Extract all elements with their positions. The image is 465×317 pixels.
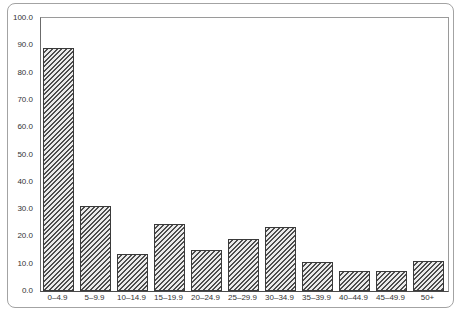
bar-chart-figure: 0.010.020.030.040.050.060.070.080.090.01…	[0, 0, 465, 317]
bar-10–14.9	[117, 254, 148, 291]
x-tick-label: 10–14.9	[116, 293, 147, 303]
plot-area	[40, 17, 449, 292]
x-axis: 0–4.95–9.910–14.915–19.920–24.925–29.930…	[40, 293, 447, 303]
y-tick-label: 30.0	[17, 204, 33, 213]
bar-0–4.9	[43, 48, 74, 291]
x-tick-label: 35–39.9	[301, 293, 332, 303]
x-tick-label: 25–29.9	[227, 293, 258, 303]
y-tick-label: 70.0	[17, 94, 33, 103]
bar-series	[41, 18, 448, 291]
x-tick-label: 45–49.9	[375, 293, 406, 303]
bar-35–39.9	[302, 262, 333, 291]
y-tick-label: 20.0	[17, 231, 33, 240]
y-tick-label: 100.0	[13, 13, 33, 22]
bar-25–29.9	[228, 239, 259, 291]
x-tick-label: 5–9.9	[79, 293, 110, 303]
bar-5–9.9	[80, 206, 111, 291]
x-tick-label: 0–4.9	[42, 293, 73, 303]
y-tick-label: 60.0	[17, 122, 33, 131]
bar-40–44.9	[339, 271, 370, 291]
y-tick-label: 90.0	[17, 40, 33, 49]
bar-50+	[413, 261, 444, 291]
bar-45–49.9	[376, 271, 407, 291]
y-tick-label: 50.0	[17, 149, 33, 158]
bar-30–34.9	[265, 227, 296, 291]
y-tick-label: 0.0	[22, 286, 33, 295]
x-tick-label: 50+	[412, 293, 443, 303]
x-tick-label: 30–34.9	[264, 293, 295, 303]
x-tick-label: 15–19.9	[153, 293, 184, 303]
y-axis: 0.010.020.030.040.050.060.070.080.090.01…	[0, 17, 36, 290]
x-tick-label: 20–24.9	[190, 293, 221, 303]
x-tick-label: 40–44.9	[338, 293, 369, 303]
y-tick-label: 40.0	[17, 176, 33, 185]
y-tick-label: 80.0	[17, 67, 33, 76]
bar-20–24.9	[191, 250, 222, 291]
y-tick-label: 10.0	[17, 258, 33, 267]
bar-15–19.9	[154, 224, 185, 291]
